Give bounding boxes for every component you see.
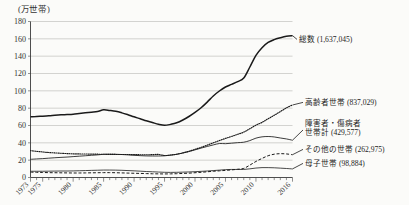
series-labels: 総数 (1,637,045)高齢者世帯 (837,029)障害者・傷病者世帯計 … xyxy=(299,34,385,168)
y-axis-tick-label: 180 xyxy=(14,17,26,26)
series-label-高齢者世帯: 高齢者世帯 (837,029) xyxy=(305,97,377,107)
series-line-母子世帯 xyxy=(31,168,293,173)
y-axis-tick-label: 80 xyxy=(18,104,26,113)
y-axis-tick-label: 60 xyxy=(18,121,26,130)
leader-line-母子世帯 xyxy=(293,163,304,169)
series-label-その他の世帯: その他の世帯 (262,975) xyxy=(305,144,385,154)
leader-line-その他の世帯 xyxy=(293,149,304,154)
leader-line-障害者・傷病者世帯計 xyxy=(293,130,304,140)
x-axis-tick-label: 1995 xyxy=(147,180,164,197)
series-label-leaders xyxy=(293,36,304,169)
x-axis-tick-label: 1985 xyxy=(87,180,104,197)
y-axis-tick-label: 100 xyxy=(14,87,26,96)
x-axis-tick-label: 1975 xyxy=(26,180,43,197)
y-axis-tick-label: 140 xyxy=(14,52,26,61)
y-axis-tick-label: 160 xyxy=(14,35,26,44)
series-label-総数: 総数 (1,637,045) xyxy=(299,34,353,44)
x-axis-tick-label: 1980 xyxy=(56,180,73,197)
x-axis-tick-label: 2010 xyxy=(239,180,256,197)
series-label-母子世帯: 母子世帯 (98,884) xyxy=(305,158,365,168)
chart-canvas: 020406080100120140160180 197319751980198… xyxy=(0,0,409,205)
x-axis-tick-label: 2000 xyxy=(178,180,195,197)
y-axis-tick-label: 120 xyxy=(14,69,26,78)
x-axis-tick-marks xyxy=(31,178,293,182)
y-axis-tick-labels: 020406080100120140160180 xyxy=(14,17,26,182)
x-axis-tick-label: 2005 xyxy=(208,180,225,197)
leader-line-総数 xyxy=(293,36,298,40)
x-axis-tick-label: 1990 xyxy=(117,180,134,197)
series-line-総数 xyxy=(31,36,293,126)
x-axis-tick-label: 2016 xyxy=(275,180,292,197)
series-line-高齢者世帯 xyxy=(31,105,293,156)
series-line-障害者・傷病者世帯計 xyxy=(31,137,293,160)
y-axis-tick-label: 20 xyxy=(18,156,26,165)
welfare-household-line-chart: (万世帯) 020406080100120140160180 197319751… xyxy=(0,0,409,205)
series-label-障害者・傷病者世帯計: 障害者・傷病者世帯計 (429,577) xyxy=(305,118,361,137)
y-axis-tick-label: 40 xyxy=(18,139,26,148)
x-axis-tick-labels: 1973197519801985199019952000200520102016 xyxy=(13,180,292,197)
leader-line-高齢者世帯 xyxy=(293,102,304,105)
